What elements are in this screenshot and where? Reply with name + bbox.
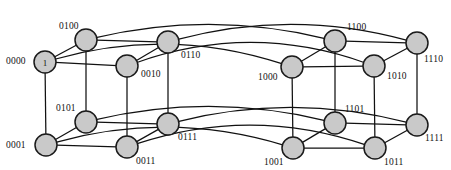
node-1001[interactable]	[282, 137, 304, 159]
node-circle-1010[interactable]	[363, 55, 385, 77]
node-1000[interactable]	[281, 56, 303, 78]
node-circle-1110[interactable]	[406, 32, 428, 54]
node-circle-1000[interactable]	[281, 56, 303, 78]
node-layer: 1	[34, 29, 428, 159]
node-0110[interactable]	[157, 31, 179, 53]
node-circle-0010[interactable]	[116, 55, 138, 77]
node-circle-1100[interactable]	[324, 30, 346, 52]
node-label-0000: 0000	[6, 57, 26, 67]
node-circle-0100[interactable]	[75, 29, 97, 51]
node-label-0111: 0111	[178, 133, 197, 143]
node-0100[interactable]	[75, 29, 97, 51]
node-1010[interactable]	[363, 55, 385, 77]
node-label-1101: 1101	[345, 105, 364, 115]
node-label-0100: 0100	[59, 22, 79, 32]
edge-1100-1110	[345, 41, 407, 43]
node-1011[interactable]	[364, 137, 386, 159]
node-circle-1001[interactable]	[282, 137, 304, 159]
node-1110[interactable]	[406, 32, 428, 54]
curved-edge-layer	[54, 24, 409, 145]
node-label-1010: 1010	[387, 72, 407, 82]
node-label-0110: 0110	[181, 51, 200, 61]
curved-edge-0110-1110	[177, 24, 409, 40]
node-label-1110: 1110	[424, 55, 443, 65]
hypercube-diagram: 1 00000100001001100001010100110111100011…	[0, 0, 451, 170]
node-label-1011: 1011	[384, 158, 403, 168]
node-0111[interactable]	[157, 113, 179, 135]
node-label-1111: 1111	[425, 134, 444, 144]
node-circle-0110[interactable]	[157, 31, 179, 53]
node-1101[interactable]	[324, 112, 346, 134]
node-0011[interactable]	[116, 136, 138, 158]
node-circle-0111[interactable]	[157, 113, 179, 135]
node-label-1001: 1001	[264, 158, 284, 168]
edge-1010-1011	[374, 76, 375, 138]
node-circle-0001[interactable]	[35, 134, 57, 156]
edge-0100-0110	[96, 40, 158, 42]
node-0001[interactable]	[35, 134, 57, 156]
node-0010[interactable]	[116, 55, 138, 77]
node-label-1000: 1000	[258, 73, 278, 83]
node-label-0011: 0011	[136, 157, 155, 167]
node-circle-1011[interactable]	[364, 137, 386, 159]
node-0101[interactable]	[75, 111, 97, 133]
curved-edge-0101-1101	[95, 106, 327, 120]
node-1100[interactable]	[324, 30, 346, 52]
edge-0000-0001	[45, 72, 46, 135]
edge-1101-1111	[345, 123, 407, 125]
node-circle-0101[interactable]	[75, 111, 97, 133]
node-circle-0011[interactable]	[116, 136, 138, 158]
node-label-0010: 0010	[141, 70, 161, 80]
edge-1000-1010	[302, 66, 364, 67]
edge-1010-1110	[383, 48, 408, 62]
edge-1001-1101	[302, 128, 327, 143]
node-inner-label-0000: 1	[43, 58, 48, 68]
node-circle-1101[interactable]	[324, 112, 346, 134]
edge-0001-0011	[56, 145, 117, 147]
edge-0101-0111	[96, 122, 158, 124]
node-0000[interactable]: 1	[34, 51, 56, 73]
edge-1000-1001	[292, 77, 293, 138]
node-label-0101: 0101	[56, 104, 76, 114]
node-label-0001: 0001	[6, 141, 26, 151]
node-label-1100: 1100	[347, 23, 366, 33]
edge-0000-0100	[54, 45, 77, 58]
edge-1011-1111	[384, 130, 408, 143]
